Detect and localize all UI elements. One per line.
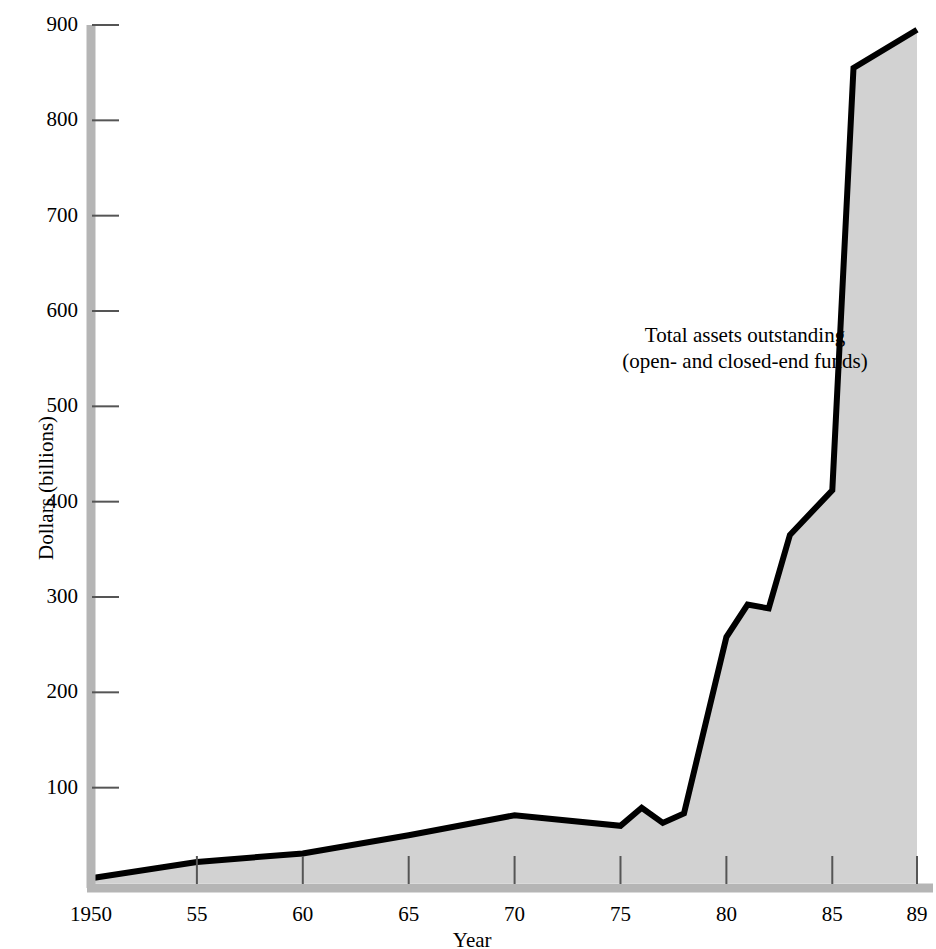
x-axis-tick-label: 85 (792, 904, 872, 925)
series-annotation-line-2: (open- and closed-end funds) (595, 348, 895, 374)
y-axis-tick-label: 500 (47, 395, 79, 416)
y-axis-tick-label: 300 (47, 586, 79, 607)
x-axis-tick-label: 65 (369, 904, 449, 925)
x-axis-tick-label: 55 (157, 904, 237, 925)
y-axis-tick-label: 800 (47, 109, 79, 130)
x-axis-tick-label: 89 (877, 904, 936, 925)
area-fill-shape (91, 30, 917, 883)
y-axis-tick-label: 100 (47, 777, 79, 798)
series-annotation-line-1: Total assets outstanding (595, 322, 895, 348)
x-axis-title: Year (412, 930, 532, 949)
chart-plot-area (0, 0, 936, 949)
series-annotation: Total assets outstanding (open- and clos… (595, 322, 895, 375)
y-axis-tick-label: 900 (47, 14, 79, 35)
chart-container: 100200300400500600700800900 195055606570… (0, 0, 936, 949)
x-axis-tick-label: 80 (686, 904, 766, 925)
y-axis-tick-label: 700 (47, 205, 79, 226)
x-axis-tick-label: 60 (263, 904, 343, 925)
y-axis-tick-label: 600 (47, 300, 79, 321)
y-axis-ticks (92, 25, 119, 788)
x-axis-tick-label: 75 (580, 904, 660, 925)
x-axis-tick-label: 70 (475, 904, 555, 925)
y-axis-title: Dollars (billions) (36, 416, 57, 560)
x-axis-tick-label: 1950 (51, 904, 131, 925)
y-axis-tick-label: 200 (47, 681, 79, 702)
